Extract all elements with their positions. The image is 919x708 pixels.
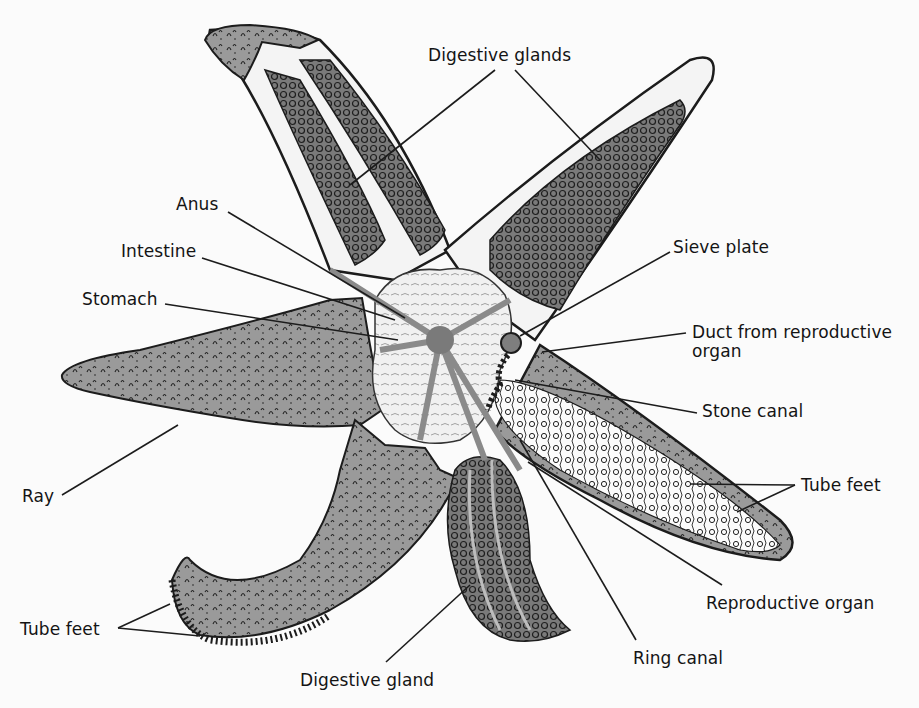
leader-tube-feet-left-2: [118, 628, 200, 636]
left-ray: [62, 298, 382, 426]
label-ring-canal: Ring canal: [633, 649, 723, 668]
lower-right-ray: [495, 345, 793, 560]
label-anus: Anus: [176, 195, 218, 214]
label-tube-feet-right: Tube feet: [801, 476, 881, 495]
label-sieve-plate: Sieve plate: [673, 238, 769, 257]
label-digestive-gland: Digestive gland: [300, 671, 434, 690]
label-duct-from-reproductive-organ: Duct from reproductive organ: [692, 323, 892, 361]
label-intestine: Intestine: [121, 242, 196, 261]
upper-left-ray: [205, 25, 450, 280]
label-ray: Ray: [22, 487, 54, 506]
label-tube-feet-left: Tube feet: [20, 620, 100, 639]
bottom-digestive-gland: [448, 457, 571, 642]
leader-tube-feet-right-1: [690, 484, 795, 485]
starfish-diagram: Digestive glands Anus Intestine Stomach …: [0, 0, 919, 708]
label-reproductive-organ: Reproductive organ: [706, 594, 874, 613]
label-stone-canal: Stone canal: [702, 402, 803, 421]
leader-ray: [62, 425, 178, 495]
leader-digestive-gland: [386, 585, 470, 662]
label-stomach: Stomach: [82, 290, 158, 309]
lower-left-ray: [172, 420, 458, 642]
leader-digestive-glands-right: [515, 70, 600, 160]
leader-duct: [542, 333, 686, 352]
leader-tube-feet-left-1: [118, 604, 170, 628]
sieve-plate-shape: [501, 333, 521, 353]
label-digestive-glands: Digestive glands: [428, 46, 571, 65]
